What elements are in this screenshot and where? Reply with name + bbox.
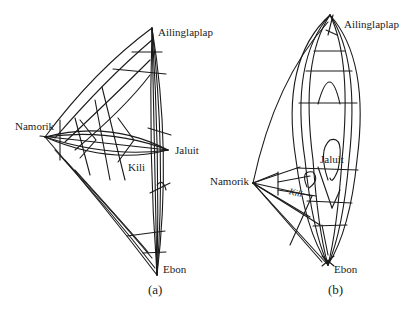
label-a-namorik: Namorik xyxy=(15,121,54,132)
stick-chart-figure: Ailinglaplap Namorik Jaluit Kili Ebon (a… xyxy=(0,0,413,310)
label-b-ailinglaplap: Ailinglaplap xyxy=(344,19,399,30)
label-b-ebon: Ebon xyxy=(334,264,357,275)
label-b-namorik: Namorik xyxy=(210,176,249,187)
caption-b: (b) xyxy=(328,283,343,296)
label-a-jaluit: Jaluit xyxy=(175,145,199,156)
label-b-jaluit: Jaluit xyxy=(320,154,344,165)
label-a-ebon: Ebon xyxy=(163,264,186,275)
label-a-ailinglaplap: Ailinglaplap xyxy=(158,27,213,38)
panel-b-lines xyxy=(253,15,360,266)
caption-a: (a) xyxy=(148,283,162,296)
label-a-kili: Kili xyxy=(128,162,145,173)
